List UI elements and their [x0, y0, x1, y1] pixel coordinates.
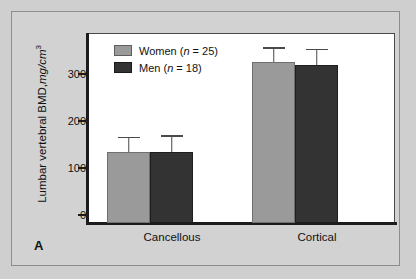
y-axis-tick-group: 0 100 200 300	[12, 12, 86, 267]
y-axis-title-main: Lumbar vertebral BMD,	[36, 84, 48, 203]
bar-cancellous-men	[150, 152, 193, 223]
error-bar-cancellous-women	[107, 137, 150, 152]
y-axis-title-exponent: 3	[34, 45, 43, 49]
error-bar-cortical-men	[295, 49, 338, 65]
x-tick-label-cancellous: Cancellous	[112, 231, 232, 243]
x-tick-label-cortical: Cortical	[257, 231, 377, 243]
figure-panel: 0 100 200 300 Lumbar vertebral BMD,mg/cm…	[11, 11, 400, 266]
panel-label: A	[34, 238, 43, 253]
error-bar-cap	[118, 137, 140, 139]
y-axis-title-unit: mg/cm	[36, 49, 48, 84]
y-axis-title: Lumbar vertebral BMD,mg/cm3	[34, 39, 48, 209]
bar-cancellous-women	[107, 152, 150, 223]
error-bar-stem	[128, 137, 130, 152]
error-bar-stem	[171, 135, 173, 152]
bar-cortical-men	[295, 65, 338, 223]
error-bar-cap	[161, 135, 183, 137]
error-bar-cortical-women	[252, 47, 295, 62]
error-bar-stem	[273, 47, 275, 62]
error-bar-stem	[316, 49, 318, 65]
error-bar-cap	[263, 47, 285, 49]
error-bar-cap	[306, 49, 328, 51]
bars-layer	[87, 33, 395, 223]
error-bar-cancellous-men	[150, 135, 193, 152]
bar-cortical-women	[252, 62, 295, 223]
